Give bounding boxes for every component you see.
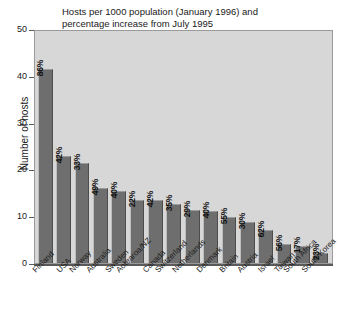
chart-figure: Number of hosts 01020304050 86%42%33%49%… — [0, 0, 339, 329]
bar-value-label: 55% — [219, 208, 229, 224]
y-tick-40: 40 — [0, 77, 34, 78]
bar[interactable]: 42% — [56, 156, 71, 263]
x-label-slot: Sweden — [109, 266, 128, 328]
bar-value-label: 42% — [145, 191, 155, 207]
chart-title: Hosts per 1000 population (January 1996)… — [62, 6, 290, 30]
bar-value-label: 49% — [90, 179, 100, 195]
y-axis-ticks: 01020304050 — [0, 0, 34, 329]
y-tick-50: 50 — [0, 30, 34, 31]
x-label-slot: South Africa — [294, 266, 313, 328]
bar-group[interactable]: 22% — [128, 31, 146, 263]
bar-group[interactable]: 86% — [36, 31, 54, 263]
x-label-slot: Switzerland — [165, 266, 184, 328]
x-label-slot: Israel — [257, 266, 276, 328]
bar-group[interactable]: 33% — [73, 31, 91, 263]
bar-group[interactable]: 40% — [201, 31, 219, 263]
x-label-slot: Finland — [35, 266, 54, 328]
bar-value-label: 40% — [201, 201, 211, 217]
bar-value-label: 40% — [109, 182, 119, 198]
bar-group[interactable]: 29% — [183, 31, 201, 263]
bar-group[interactable]: 56% — [275, 31, 293, 263]
bar-series: 86%42%33%49%40%22%42%35%29%40%55%30%62%5… — [35, 31, 332, 263]
x-axis-labels: FinlandUSANorwayAustraliaSwedenAotearoa/… — [34, 266, 333, 328]
bar-group[interactable]: 30% — [238, 31, 256, 263]
bar-value-label: 56% — [274, 235, 284, 251]
bar-value-label: 86% — [35, 60, 45, 76]
bar-group[interactable]: 17% — [293, 31, 311, 263]
x-label-slot: Denmark — [202, 266, 221, 328]
y-tick-label: 0 — [22, 258, 27, 269]
bar-value-label: 22% — [127, 191, 137, 207]
bar-group[interactable]: 35% — [165, 31, 183, 263]
y-tick-0: 0 — [0, 264, 34, 265]
y-tick-label: 20 — [17, 164, 27, 175]
bar-group[interactable]: 40% — [110, 31, 128, 263]
x-label-slot: South Korea — [313, 266, 332, 328]
bar[interactable]: 33% — [75, 163, 90, 263]
bar-group[interactable]: 62% — [257, 31, 275, 263]
bar-group[interactable]: 42% — [54, 31, 72, 263]
bar-group[interactable]: 49% — [91, 31, 109, 263]
y-tick-label: 40 — [17, 71, 27, 82]
bar-value-label: 62% — [256, 221, 266, 237]
plot-area: 86%42%33%49%40%22%42%35%29%40%55%30%62%5… — [34, 30, 333, 264]
x-label-slot: Aotearoa/NZ — [128, 266, 147, 328]
y-tick-label: 10 — [17, 211, 27, 222]
bar-value-label: 33% — [72, 154, 82, 170]
x-label-slot: Taiwan — [276, 266, 295, 328]
x-label-slot: USA — [54, 266, 73, 328]
x-label-slot: Britain — [220, 266, 239, 328]
y-tick-10: 10 — [0, 217, 34, 218]
y-tick-30: 30 — [0, 124, 34, 125]
y-tick-label: 30 — [17, 118, 27, 129]
x-label-slot: Norway — [72, 266, 91, 328]
bar[interactable]: 86% — [38, 69, 53, 263]
bar-group[interactable]: 42% — [146, 31, 164, 263]
bar-group[interactable]: 55% — [220, 31, 238, 263]
x-label-slot: Netherlands — [183, 266, 202, 328]
y-tick-20: 20 — [0, 170, 34, 171]
bar-value-label: 42% — [54, 147, 64, 163]
bar-value-label: 29% — [182, 200, 192, 216]
bar-value-label: 35% — [164, 195, 174, 211]
bar-value-label: 30% — [237, 213, 247, 229]
x-label-slot: Austria — [239, 266, 258, 328]
x-label-slot: Canada — [146, 266, 165, 328]
bar-group[interactable]: 23% — [312, 31, 330, 263]
x-label-slot: Australia — [91, 266, 110, 328]
y-tick-label: 50 — [17, 24, 27, 35]
